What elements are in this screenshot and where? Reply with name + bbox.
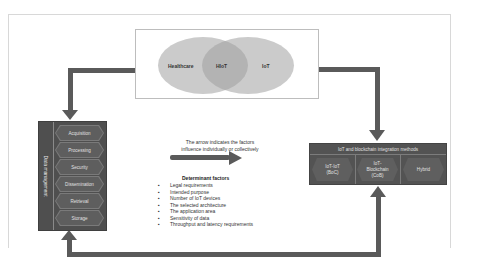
step-dissemination: Dissemination <box>56 177 103 191</box>
step-retrieval: Retrieval <box>56 194 103 208</box>
determinants-list: Legal requirements Intended purpose Numb… <box>158 182 268 228</box>
step-security: Security <box>56 160 103 174</box>
arrow-down-icon <box>369 130 385 141</box>
determinants-title: Determinant factors <box>182 175 229 181</box>
arrow-down-icon <box>62 110 78 120</box>
step-storage: Storage <box>56 211 103 225</box>
method-hybrid: Hybrid <box>401 155 446 184</box>
step-acquisition: Acquisition <box>56 126 103 140</box>
integration-methods-box: IoT and blockchain integration methods I… <box>309 143 447 185</box>
arrow-up-icon <box>61 230 77 240</box>
connector-top-right-horizontal <box>316 67 380 72</box>
connector-bottom-horizontal <box>67 252 381 257</box>
determinant-item: Throughput and latency requirements <box>158 221 268 228</box>
method-iot-iot: IoT-IoT(BoC) <box>310 155 356 184</box>
connector-bottom-left-vertical <box>67 240 72 257</box>
venn-diagram: Healthcare HIoT IoT <box>135 29 319 99</box>
method-iot-blockchain: IoT-Blockchain(CoB) <box>355 155 401 184</box>
integration-title: IoT and blockchain integration methods <box>310 144 446 155</box>
venn-label-healthcare: Healthcare <box>168 63 194 69</box>
venn-label-iot: IoT <box>262 63 270 69</box>
venn-label-hiot: HIoT <box>216 63 227 69</box>
influence-arrow-shaft <box>170 155 230 160</box>
arrow-right-icon <box>229 151 242 165</box>
arrow-caption: The arrow indicates the factors influenc… <box>150 139 290 153</box>
step-processing: Processing <box>56 143 103 157</box>
arrow-up-icon <box>370 186 386 197</box>
connector-bottom-right-vertical <box>376 196 381 257</box>
data-management-box: Data management Acquisition Processing S… <box>38 121 107 231</box>
connector-top-left-vertical <box>68 68 73 112</box>
data-management-title: Data management <box>39 122 54 230</box>
connector-top-right-vertical <box>375 67 380 131</box>
connector-top-left-horizontal <box>68 68 138 73</box>
